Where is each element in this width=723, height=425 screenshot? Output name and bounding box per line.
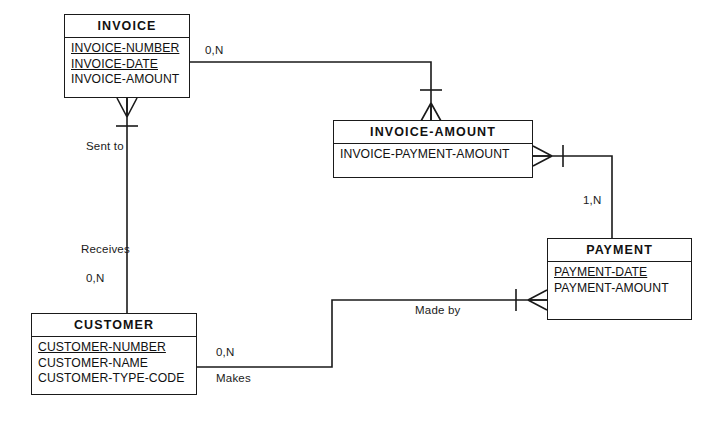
crowsfoot-payment-left	[528, 290, 547, 310]
entity-payment[interactable]: PAYMENT PAYMENT-DATE PAYMENT-AMOUNT	[547, 238, 692, 320]
crowsfoot-invoice-bottom	[117, 98, 137, 117]
entity-invoice[interactable]: INVOICE INVOICE-NUMBER INVOICE-DATE INVO…	[64, 14, 190, 98]
verb-sent-to: Sent to	[86, 140, 124, 152]
entity-payment-title: PAYMENT	[548, 239, 691, 262]
entity-invoice-amount[interactable]: INVOICE-AMOUNT INVOICE-PAYMENT-AMOUNT	[333, 120, 533, 178]
attribute-customer-number: CUSTOMER-NUMBER	[38, 340, 196, 356]
attribute-payment-amount: PAYMENT-AMOUNT	[554, 281, 691, 297]
cardinality-invoice-to-invoice-amount: 0,N	[205, 44, 224, 56]
cardinality-invoice-to-customer: 0,N	[86, 272, 105, 284]
entity-invoice-amount-attributes: INVOICE-PAYMENT-AMOUNT	[334, 144, 532, 166]
er-diagram-canvas: INVOICE INVOICE-NUMBER INVOICE-DATE INVO…	[0, 0, 723, 425]
attribute-invoice-number: INVOICE-NUMBER	[71, 41, 189, 57]
verb-made-by: Made by	[415, 304, 461, 316]
entity-customer-attributes: CUSTOMER-NUMBER CUSTOMER-NAME CUSTOMER-T…	[32, 337, 196, 390]
attribute-invoice-payment-amount: INVOICE-PAYMENT-AMOUNT	[340, 147, 532, 163]
attribute-invoice-amount: INVOICE-AMOUNT	[71, 72, 189, 88]
attribute-customer-name: CUSTOMER-NAME	[38, 356, 196, 372]
verb-makes: Makes	[216, 372, 251, 384]
crowsfoot-invoice-amount-top	[421, 103, 441, 121]
attribute-customer-type-code: CUSTOMER-TYPE-CODE	[38, 371, 196, 387]
line-customer-to-payment	[197, 300, 547, 367]
entity-customer-title: CUSTOMER	[32, 314, 196, 337]
cardinality-invoice-amount-to-payment: 1,N	[583, 194, 602, 206]
verb-receives: Receives	[81, 243, 130, 255]
entity-invoice-amount-title: INVOICE-AMOUNT	[334, 121, 532, 144]
attribute-invoice-date: INVOICE-DATE	[71, 57, 189, 73]
line-invoice-to-invoice-amount	[190, 62, 431, 120]
cardinality-customer-makes: 0,N	[216, 346, 235, 358]
attribute-payment-date: PAYMENT-DATE	[554, 265, 691, 281]
entity-customer[interactable]: CUSTOMER CUSTOMER-NUMBER CUSTOMER-NAME C…	[31, 313, 197, 395]
entity-payment-attributes: PAYMENT-DATE PAYMENT-AMOUNT	[548, 262, 691, 299]
entity-invoice-title: INVOICE	[65, 15, 189, 38]
entity-invoice-attributes: INVOICE-NUMBER INVOICE-DATE INVOICE-AMOU…	[65, 38, 189, 91]
crowsfoot-invoice-amount-right	[533, 146, 552, 166]
